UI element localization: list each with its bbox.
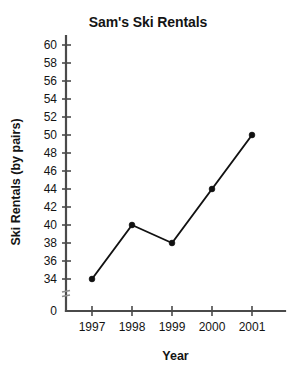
y-tick-label: 36 xyxy=(44,254,58,268)
x-tick-label: 2001 xyxy=(239,320,266,334)
chart-container: Sam's Ski Rentals Ski Rentals (by pairs)… xyxy=(0,0,296,376)
x-tick-label: 1999 xyxy=(159,320,186,334)
y-tick-label: 60 xyxy=(44,38,58,52)
data-point xyxy=(129,222,135,228)
data-point xyxy=(169,240,175,246)
y-tick-label: 54 xyxy=(44,92,58,106)
y-tick-label: 46 xyxy=(44,164,58,178)
x-tick-label: 2000 xyxy=(199,320,226,334)
data-point xyxy=(249,132,255,138)
y-tick-label: 52 xyxy=(44,110,58,124)
y-tick-label: 42 xyxy=(44,200,58,214)
y-tick-label: 58 xyxy=(44,56,58,70)
y-tick-label-zero: 0 xyxy=(50,304,57,318)
data-markers xyxy=(89,132,255,282)
plot-area: 34363840424446485052545658600 1997199819… xyxy=(0,0,296,376)
x-tick-label: 1997 xyxy=(79,320,106,334)
data-point xyxy=(209,186,215,192)
x-tick-label: 1998 xyxy=(119,320,146,334)
y-tick-label: 48 xyxy=(44,146,58,160)
y-tick-label: 34 xyxy=(44,272,58,286)
y-tick-label: 50 xyxy=(44,128,58,142)
data-line xyxy=(92,135,252,279)
y-tick-label: 38 xyxy=(44,236,58,250)
data-point xyxy=(89,276,95,282)
y-tick-label: 44 xyxy=(44,182,58,196)
y-tick-label: 56 xyxy=(44,74,58,88)
y-tick-label: 40 xyxy=(44,218,58,232)
